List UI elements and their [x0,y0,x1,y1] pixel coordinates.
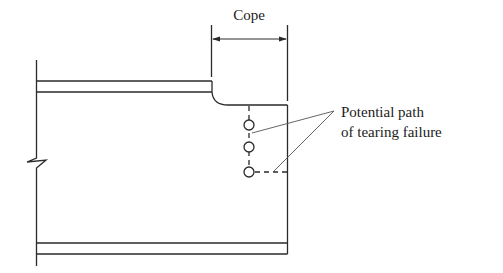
leader-line-lower [273,111,334,172]
cope-cut-edge [212,81,288,105]
leader-line-upper [252,111,334,133]
bolt-hole-icon [244,167,254,177]
bolt-hole-icon [244,142,254,152]
bolt-hole-icon [244,120,254,130]
cope-label: Cope [233,7,265,23]
coped-beam-diagram: Cope Potential path of tearing failure [0,0,503,273]
support-column-line [27,60,46,266]
tearing-label-line1: Potential path [341,104,424,120]
tearing-label-line2: of tearing failure [341,124,442,140]
arrow-left-icon [212,37,220,42]
arrow-right-icon [279,37,287,42]
